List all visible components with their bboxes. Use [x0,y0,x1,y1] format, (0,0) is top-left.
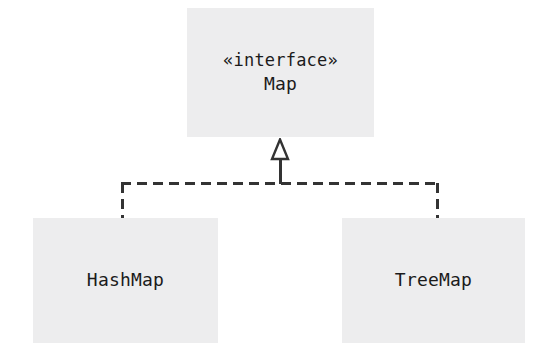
class-stereotype-label: «interface» [223,49,338,72]
class-name-label-treemap: TreeMap [395,268,472,292]
class-box-hashmap[interactable]: HashMap [33,218,218,343]
connector-horizontal-dashed-line [121,182,439,185]
class-box-map[interactable]: «interface» Map [187,8,374,137]
connector-vertical-stub [279,160,282,184]
class-name-label-hashmap: HashMap [87,268,164,292]
connector-vertical-dashed-line-right [436,183,439,220]
class-box-treemap[interactable]: TreeMap [342,218,525,343]
uml-diagram-canvas: «interface» Map HashMap TreeMap [0,0,546,356]
connector-vertical-dashed-line-left [121,183,124,220]
hollow-triangle-arrowhead-icon [268,138,292,162]
class-name-label-map: Map [264,72,297,96]
